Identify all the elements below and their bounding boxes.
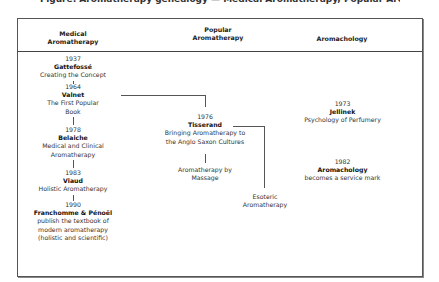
connector-tisserand-esoteric-drop	[264, 126, 265, 188]
node-gattefosse: 1937 Gattefossé Creating the Concept	[23, 55, 123, 80]
header-divider	[17, 51, 422, 52]
figure-title-cropped: Figure: Aromatherapy genealogy — Medical…	[40, 0, 400, 4]
node-desc: modern aromatherapy	[18, 226, 128, 234]
node-desc: Aromatherapy	[230, 201, 300, 209]
column-header-popular: Popular Aromatherapy	[178, 26, 258, 42]
node-name: Aromachology	[295, 166, 390, 174]
header-line: Aromatherapy	[33, 38, 113, 46]
column-header-medical: Medical Aromatherapy	[33, 30, 113, 46]
node-year: 1937	[23, 55, 123, 63]
node-valnet: 1964 Valnet The First Popular Book	[23, 83, 123, 116]
connector-valnet-tisserand	[121, 95, 206, 96]
node-desc: the Anglo Saxon Cultures	[155, 138, 255, 146]
node-year: 1982	[295, 158, 390, 166]
node-desc: Massage	[155, 174, 255, 182]
node-name: Gattefossé	[23, 63, 123, 71]
node-desc: Creating the Concept	[23, 71, 123, 79]
node-desc: Holistic Aromatherapy	[23, 185, 123, 193]
node-year: 1990	[18, 201, 128, 209]
node-aromachology-service-mark: 1982 Aromachology becomes a service mark	[295, 158, 390, 183]
node-name: Jellinek	[295, 108, 390, 116]
node-year: 1973	[295, 100, 390, 108]
node-desc: Aromatherapy by	[155, 166, 255, 174]
node-desc: Psychology of Perfumery	[295, 116, 390, 124]
node-year: 1983	[23, 169, 123, 177]
node-desc: publish the textbook of	[18, 217, 128, 225]
node-aromatherapy-by-massage: Aromatherapy by Massage	[155, 166, 255, 182]
node-name: Viaud	[23, 177, 123, 185]
column-header-aromachology: Aromachology	[300, 35, 384, 43]
header-line: Aromatherapy	[178, 34, 258, 42]
node-desc: (holistic and scientific)	[18, 234, 128, 242]
header-line: Popular	[178, 26, 258, 34]
node-viaud: 1983 Viaud Holistic Aromatherapy	[23, 169, 123, 194]
node-desc: Esoteric	[230, 193, 300, 201]
node-jellinek: 1973 Jellinek Psychology of Perfumery	[295, 100, 390, 125]
node-year: 1976	[155, 113, 255, 121]
node-year: 1964	[23, 83, 123, 91]
node-franchomme-penoel: 1990 Franchomme & Pénoël publish the tex…	[18, 201, 128, 242]
header-line: Aromachology	[300, 35, 384, 43]
node-desc: Book	[23, 108, 123, 116]
node-esoteric-aromatherapy: Esoteric Aromatherapy	[230, 193, 300, 209]
node-desc: Bringing Aromatherapy to	[155, 129, 255, 137]
connector-valnet-tisserand-drop	[205, 95, 206, 107]
connector-tisserand-esoteric	[233, 126, 265, 127]
connector-line	[205, 154, 206, 163]
node-desc: becomes a service mark	[295, 174, 390, 182]
node-desc: Aromatherapy	[23, 151, 123, 159]
connector-line	[73, 117, 74, 125]
header-line: Medical	[33, 30, 113, 38]
node-name: Valnet	[23, 91, 123, 99]
node-name: Belaiche	[23, 134, 123, 142]
node-tisserand: 1976 Tisserand Bringing Aromatherapy to …	[155, 113, 255, 146]
node-desc: Medical and Clinical	[23, 142, 123, 150]
node-desc: The First Popular	[23, 99, 123, 107]
node-year: 1978	[23, 126, 123, 134]
node-belaiche: 1978 Belaiche Medical and Clinical Aroma…	[23, 126, 123, 159]
node-name: Franchomme & Pénoël	[18, 209, 128, 217]
connector-line	[73, 160, 74, 168]
